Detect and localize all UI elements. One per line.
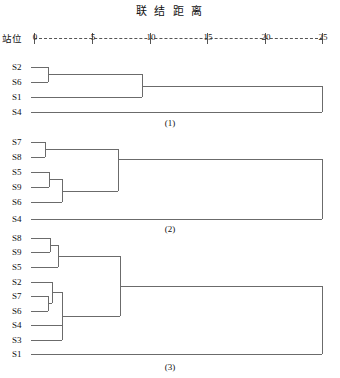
branch-leaf-p2-3	[31, 187, 49, 188]
axis-tick-20: 20	[265, 33, 266, 44]
branch-leaf-p3-8	[31, 354, 322, 355]
dendrogram-figure: 联 结 距 离 站位 0 5 10 15 20 25 S2 S6 S1 S4	[0, 0, 340, 378]
axis-tick-5: 5	[92, 33, 93, 44]
branch-cluster-p2-c	[62, 191, 118, 192]
distance-axis: 站位 0 5 10 15 20 25	[0, 20, 340, 46]
branch-leaf-p2-0	[31, 142, 45, 143]
axis-tick-10: 10	[150, 33, 151, 44]
axis-tick-label-5: 5	[91, 32, 96, 42]
branch-leaf-p3-1	[31, 252, 50, 253]
leaf-label-p3-7: S3	[12, 335, 22, 345]
branch-leaf-p3-3	[31, 282, 52, 283]
branch-cluster-p3-d	[52, 292, 62, 293]
dendrogram-panel-3: S8 S9 S5 S2 S7 S6 S4 S3 S1	[0, 230, 340, 378]
branch-leaf-p2-1	[31, 157, 45, 158]
leaf-label-p2-2: S5	[12, 167, 22, 177]
branch-leaf-p2-4	[31, 202, 62, 203]
branch-leaf-p3-0	[31, 238, 50, 239]
branch-join-p1-root	[322, 86, 323, 112]
branch-cluster-p1-b	[142, 86, 322, 87]
leaf-label-p3-3: S2	[12, 277, 22, 287]
branch-cluster-p3-c	[48, 303, 52, 304]
axis-y-label: 站位	[2, 31, 22, 45]
branch-cluster-p3-f	[120, 286, 322, 287]
panel-caption-1: (1)	[0, 118, 340, 128]
axis-tick-label-20: 20	[262, 32, 271, 42]
chart-title: 联 结 距 离	[0, 2, 340, 18]
leaf-label-p3-0: S8	[12, 233, 22, 243]
axis-tick-label-15: 15	[204, 32, 213, 42]
panel-caption-3: (3)	[0, 362, 340, 372]
branch-leaf-p1-1	[31, 82, 48, 83]
branch-cluster-p3-b	[58, 256, 120, 257]
leaf-label-p2-4: S6	[12, 197, 22, 207]
leaf-label-p3-5: S6	[12, 306, 22, 316]
dendrogram-panel-2: S7 S8 S5 S9 S6 S4 (2)	[0, 134, 340, 230]
leaf-label-p2-3: S9	[12, 182, 22, 192]
axis-tick-15: 15	[207, 33, 208, 44]
branch-leaf-p2-2	[31, 172, 49, 173]
branch-cluster-p2-a	[45, 149, 118, 150]
axis-tick-label-10: 10	[147, 32, 156, 42]
leaf-label-p3-8: S1	[12, 349, 22, 359]
branch-leaf-p3-6	[31, 325, 62, 326]
axis-tick-25: 25	[322, 33, 323, 44]
axis-tick-label-25: 25	[319, 32, 328, 42]
branch-leaf-p3-2	[31, 267, 58, 268]
leaf-label-p2-5: S4	[12, 214, 22, 224]
leaf-label-p1-0: S2	[12, 62, 22, 72]
leaf-label-p3-1: S9	[12, 247, 22, 257]
branch-cluster-p3-a	[50, 245, 58, 246]
leaf-label-p1-1: S6	[12, 77, 22, 87]
axis-tick-0: 0	[34, 33, 35, 44]
branch-leaf-p2-5	[31, 219, 322, 220]
leaf-label-p1-3: S4	[12, 107, 22, 117]
leaf-label-p2-0: S7	[12, 137, 22, 147]
branch-leaf-p3-4	[31, 296, 48, 297]
branch-join-p3-root	[322, 286, 323, 354]
branch-cluster-p2-b	[49, 179, 62, 180]
axis-tick-label-0: 0	[33, 32, 38, 42]
branch-leaf-p3-7	[31, 340, 62, 341]
branch-leaf-p1-3-stem	[31, 112, 322, 113]
leaf-label-p3-6: S4	[12, 320, 22, 330]
leaf-label-p3-2: S5	[12, 262, 22, 272]
branch-join-p2-root	[322, 159, 323, 219]
axis-dashed-line	[34, 38, 323, 39]
leaf-label-p2-1: S8	[12, 152, 22, 162]
branch-leaf-p1-2-stem	[31, 97, 142, 98]
leaf-label-p3-4: S7	[12, 291, 22, 301]
branch-cluster-p1-a	[48, 74, 142, 75]
branch-leaf-p3-5	[31, 311, 48, 312]
branch-leaf-p1-0	[31, 67, 48, 68]
branch-cluster-p3-e	[62, 316, 120, 317]
branch-join-p2-d	[118, 149, 119, 191]
branch-cluster-p2-d	[118, 159, 322, 160]
dendrogram-panel-1: S2 S6 S1 S4 (1)	[0, 56, 340, 122]
leaf-label-p1-2: S1	[12, 92, 22, 102]
